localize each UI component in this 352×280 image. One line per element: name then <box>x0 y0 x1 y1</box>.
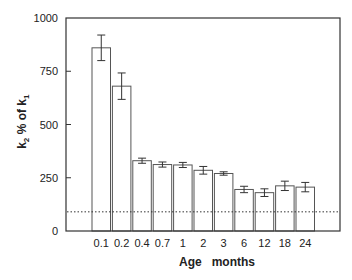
y-tick-label: 0 <box>52 225 58 237</box>
bar-2 <box>194 170 213 231</box>
bar-0.1 <box>92 48 111 231</box>
y-tick-label: 250 <box>40 172 58 184</box>
bar-0.2 <box>112 86 130 231</box>
y-axis-label: k2 % of k1 <box>15 85 32 166</box>
y-tick-label: 1000 <box>34 12 58 24</box>
x-tick-label: 0.7 <box>155 237 170 249</box>
bar-0.7 <box>153 165 172 231</box>
bar-3 <box>214 173 233 231</box>
x-tick-label: 12 <box>258 237 270 249</box>
y-axis-ticks: 02505007501000 <box>34 12 71 237</box>
y-tick-label: 750 <box>40 65 58 77</box>
x-axis-tick-labels: 0.10.20.40.71236121824 <box>94 237 312 249</box>
x-tick-label: 1 <box>180 237 186 249</box>
bar-24 <box>296 187 315 231</box>
x-tick-label: 0.2 <box>114 237 129 249</box>
x-tick-label: 18 <box>279 237 291 249</box>
x-tick-label: 0.1 <box>94 237 109 249</box>
bars-group <box>92 48 315 231</box>
x-tick-label: 2 <box>200 237 206 249</box>
bar-0.4 <box>133 161 152 231</box>
y-tick-label: 500 <box>40 119 58 131</box>
x-tick-label: 3 <box>221 237 227 249</box>
bar-1 <box>174 165 193 231</box>
x-tick-label: 0.4 <box>134 237 149 249</box>
bar-chart: 02505007501000 0.10.20.40.71236121824 Ag… <box>0 0 352 280</box>
x-axis-label: Age months <box>179 255 255 269</box>
bar-18 <box>276 186 295 231</box>
x-tick-label: 6 <box>241 237 247 249</box>
x-tick-label: 24 <box>299 237 311 249</box>
bar-6 <box>235 189 254 231</box>
